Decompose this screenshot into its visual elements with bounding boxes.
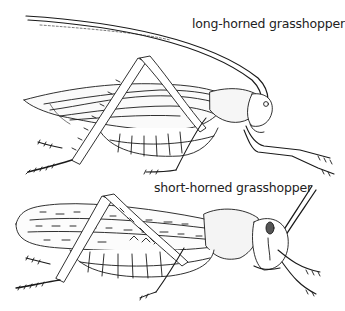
short-horned-grasshopper-drawing	[16, 186, 320, 300]
long-horned-grasshopper-drawing	[24, 16, 334, 176]
grasshopper-illustrations	[0, 0, 345, 311]
